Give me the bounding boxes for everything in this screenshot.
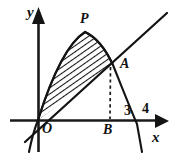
x-axis-label: x xyxy=(152,130,160,145)
dashed-perpendicular xyxy=(110,67,111,119)
x-tick-4-label: 4 xyxy=(142,102,149,116)
parabola-vertex-label: P xyxy=(80,12,89,26)
origin-point-label: O xyxy=(42,122,52,136)
intersection-point-label: A xyxy=(120,57,129,71)
y-axis-label: y xyxy=(27,5,34,20)
x-axis-arrowhead xyxy=(155,114,169,128)
math-figure: y x O P A B 3 4 xyxy=(0,0,175,158)
x-tick-3-label: 3 xyxy=(124,104,131,118)
foot-of-perpendicular-label: B xyxy=(103,123,112,137)
